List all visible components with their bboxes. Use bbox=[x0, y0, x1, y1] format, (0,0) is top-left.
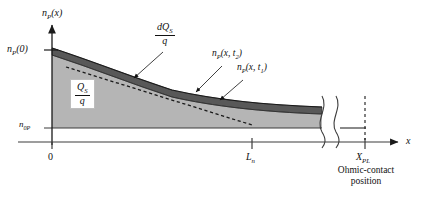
x-tick-label-xpl: XPL bbox=[356, 151, 370, 164]
curve-label-np-t1: nP(x, t1) bbox=[237, 62, 267, 74]
x-tick-label-origin: 0 bbox=[48, 151, 53, 162]
y-axis-label: nP(x) bbox=[42, 7, 62, 20]
axis-break-symbol-right bbox=[334, 96, 339, 148]
y-tick-label-np0: nP(0) bbox=[7, 43, 28, 56]
charge-strip-label: dQS q bbox=[155, 22, 175, 46]
ohmic-contact-caption: Ohmic-contact position bbox=[316, 165, 416, 187]
leader-np-t2 bbox=[196, 66, 222, 92]
curve-label-np-t2: nP(x, t2) bbox=[212, 48, 242, 60]
y-tick-label-n0p: n0P bbox=[19, 119, 30, 131]
x-axis-label: x bbox=[406, 135, 410, 146]
leader-np-t1 bbox=[220, 80, 243, 100]
charge-area-label: QS q bbox=[70, 79, 95, 109]
leader-dqs bbox=[134, 52, 163, 78]
x-tick-label-ln: Ln bbox=[246, 151, 255, 164]
